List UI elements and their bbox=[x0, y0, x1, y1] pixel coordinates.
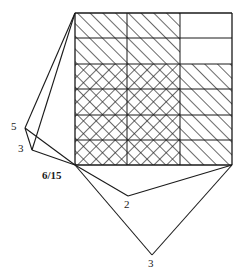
grid-cell bbox=[180, 140, 232, 165]
grid-cell bbox=[75, 38, 127, 64]
grid-cell bbox=[127, 89, 180, 115]
vertex-label-3b: 3 bbox=[148, 258, 154, 269]
polygon-edge bbox=[75, 165, 128, 196]
vertex-label-3a: 3 bbox=[18, 143, 24, 154]
grid-cell bbox=[127, 38, 180, 64]
grid-cell bbox=[180, 89, 232, 115]
grid-cell bbox=[180, 64, 232, 89]
polygon-edge bbox=[75, 165, 152, 255]
vertex-label-5: 5 bbox=[11, 121, 17, 132]
polygon-edge bbox=[32, 150, 75, 165]
grid-cell bbox=[127, 13, 180, 38]
grid-cell bbox=[180, 115, 232, 140]
grid-cell bbox=[127, 64, 180, 89]
grid-cell bbox=[75, 115, 127, 140]
polygon-edge bbox=[25, 13, 75, 128]
polygon-edge bbox=[25, 128, 32, 150]
grid-cell bbox=[180, 13, 232, 38]
geometry-figure bbox=[0, 0, 246, 279]
grid-cell bbox=[75, 13, 127, 38]
vertex-label-2: 2 bbox=[124, 199, 130, 210]
polygon-edge bbox=[128, 165, 232, 196]
grid-cell bbox=[180, 38, 232, 64]
vertex-label-6-15: 6/15 bbox=[42, 170, 62, 181]
polygon-edge bbox=[32, 13, 75, 150]
polygon-edge bbox=[152, 165, 232, 255]
grid-cell bbox=[75, 89, 127, 115]
grid-cell bbox=[75, 140, 127, 165]
grid-cell bbox=[75, 64, 127, 89]
grid-cell bbox=[127, 140, 180, 165]
polygon-edge bbox=[25, 128, 75, 165]
grid-cell bbox=[127, 115, 180, 140]
